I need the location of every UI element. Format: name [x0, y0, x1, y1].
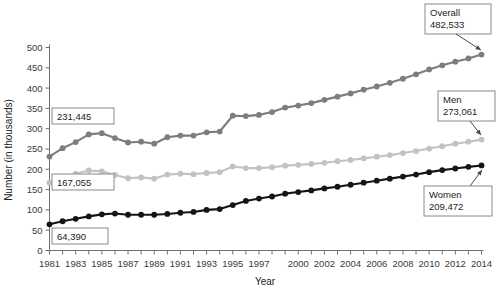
data-point [164, 134, 170, 140]
data-point [204, 207, 210, 213]
y-tick-label: 250 [27, 143, 43, 154]
data-point [164, 211, 170, 217]
x-tick-label: 1981 [39, 258, 60, 269]
y-tick-label: 0 [37, 245, 42, 256]
data-point [204, 129, 210, 135]
data-point [164, 172, 170, 178]
x-tick-label: 1997 [248, 258, 269, 269]
data-point [256, 112, 262, 118]
x-tick-label: 2008 [392, 258, 413, 269]
data-point [439, 62, 445, 68]
callout-men-end-text: Men [443, 94, 461, 105]
x-tick-label: 2000 [288, 258, 309, 269]
data-point [426, 169, 432, 175]
x-tick-label: 2002 [314, 258, 335, 269]
callout-overall-end-text: Overall [430, 7, 460, 18]
callout-leader [470, 170, 482, 186]
y-tick-label: 100 [27, 204, 43, 215]
data-point [413, 148, 419, 154]
data-point [178, 171, 184, 177]
data-point [243, 198, 249, 204]
data-point [217, 129, 223, 135]
data-point [269, 194, 275, 200]
callout-women-start-text: 64,390 [57, 231, 86, 242]
data-point [86, 168, 92, 174]
data-point [361, 87, 367, 93]
data-point [99, 130, 105, 136]
data-point [138, 139, 144, 145]
data-point [230, 202, 236, 208]
data-point [99, 168, 105, 174]
data-point [452, 166, 458, 172]
data-point [374, 178, 380, 184]
x-tick-label: 2006 [366, 258, 387, 269]
y-tick-label: 50 [32, 225, 43, 236]
x-tick-label: 1985 [91, 258, 112, 269]
y-tick-label: 200 [27, 164, 43, 175]
data-point [125, 175, 131, 181]
data-point [374, 84, 380, 90]
data-point [374, 154, 380, 160]
data-point [322, 97, 328, 103]
x-tick-label: 1983 [65, 258, 86, 269]
data-point [466, 164, 472, 170]
data-point [308, 188, 314, 194]
line-chart-canvas: 050100150200250300350400450500 198119831… [0, 0, 501, 290]
data-point [282, 163, 288, 169]
data-point [387, 176, 393, 182]
callout-women-start: 64,390 [52, 228, 108, 244]
data-point [230, 164, 236, 170]
callout-men-end-text: 273,061 [443, 106, 477, 117]
data-point [426, 67, 432, 73]
data-point [86, 214, 92, 220]
callout-women-end-text: Women [429, 189, 462, 200]
callout-men-end: Men273,061 [438, 91, 495, 121]
data-point [269, 109, 275, 115]
data-point [361, 155, 367, 161]
data-point [466, 139, 472, 145]
data-point [47, 221, 53, 227]
y-tick-label: 450 [27, 62, 43, 73]
data-point [256, 165, 262, 171]
callout-overall-end-text: 482,533 [430, 19, 464, 30]
data-point [387, 80, 393, 86]
data-point [439, 143, 445, 149]
data-point [479, 52, 485, 58]
data-point [178, 133, 184, 139]
data-point [400, 76, 406, 82]
y-tick-label: 500 [27, 42, 43, 53]
callout-men-start-text: 167,055 [57, 177, 91, 188]
x-tick-label: 1991 [170, 258, 191, 269]
data-point [178, 210, 184, 216]
data-point [361, 180, 367, 186]
x-tick-label: 1987 [117, 258, 138, 269]
annotation-callouts-layer: 231,445167,05564,390Overall482,533Men273… [52, 4, 495, 244]
callout-leader [456, 34, 481, 50]
data-point [99, 211, 105, 217]
x-tick-label: 2004 [340, 258, 361, 269]
data-point [138, 212, 144, 218]
data-point [217, 169, 223, 175]
data-point [73, 216, 79, 222]
data-point [335, 94, 341, 100]
data-point [295, 162, 301, 168]
data-point [73, 139, 79, 145]
data-point [335, 158, 341, 164]
data-point [413, 172, 419, 178]
x-axis-ticks: 1981198319851987198919911993199519972000… [39, 251, 492, 269]
data-point [479, 163, 485, 169]
data-point [112, 211, 118, 217]
data-point [217, 206, 223, 212]
callout-overall-end: Overall482,533 [425, 4, 491, 34]
data-point [230, 113, 236, 119]
callout-men-start: 167,055 [52, 174, 114, 190]
data-point [387, 152, 393, 158]
data-point [295, 189, 301, 195]
data-point [282, 105, 288, 111]
y-tick-label: 350 [27, 103, 43, 114]
x-tick-label: 2014 [471, 258, 492, 269]
data-point [191, 133, 197, 139]
data-point [86, 131, 92, 137]
y-axis-ticks: 050100150200250300350400450500 [27, 42, 50, 256]
data-point [295, 103, 301, 109]
